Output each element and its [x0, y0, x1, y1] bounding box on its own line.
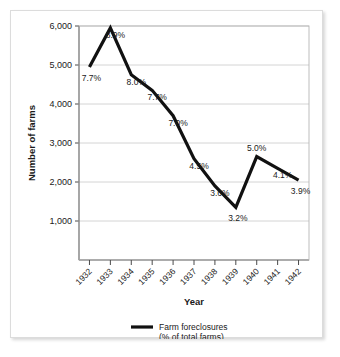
figure-card: 1,0002,0003,0004,0005,0006,000 193219331… [10, 10, 323, 338]
y-axis-tick-label: 4,000 [49, 99, 72, 109]
data-point-label: 8.9% [106, 30, 126, 40]
x-axis-tick-label: 1941 [262, 266, 283, 287]
x-axis-tick-label: 1942 [283, 266, 304, 287]
data-point-label: 7.0% [168, 118, 188, 128]
data-point-label: 4.5% [189, 161, 209, 171]
legend-label-line1: Farm foreclosures [159, 322, 228, 332]
y-axis-title: Number of farms [26, 105, 37, 181]
data-point-label: 5.0% [247, 143, 267, 153]
data-point-labels: 7.7%8.9%8.0%7.7%7.0%4.5%3.6%3.2%5.0%4.1%… [82, 30, 311, 223]
x-axis-tick-marks [89, 260, 298, 265]
x-axis-tick-label: 1934 [115, 266, 136, 287]
x-axis-tick-label: 1937 [178, 266, 199, 287]
data-point-label: 3.6% [210, 188, 230, 198]
x-axis-tick-label: 1932 [73, 266, 94, 287]
legend-label-line2: (% of total farms) [159, 332, 224, 339]
chart-svg: 1,0002,0003,0004,0005,0006,000 193219331… [11, 11, 324, 339]
data-point-label: 7.7% [82, 73, 102, 83]
series-line-farm-foreclosures [89, 28, 298, 207]
x-axis-tick-label: 1940 [241, 266, 262, 287]
data-point-label: 3.9% [291, 186, 311, 196]
line-chart: 1,0002,0003,0004,0005,0006,000 193219331… [11, 11, 324, 339]
y-axis-tick-label: 5,000 [49, 60, 72, 70]
gridlines [79, 26, 309, 260]
data-point-label: 7.7% [147, 92, 167, 102]
x-axis-tick-label: 1938 [199, 266, 220, 287]
x-axis-title: Year [184, 296, 204, 307]
x-axis-tick-label: 1939 [220, 266, 241, 287]
y-axis-tick-label: 1,000 [49, 216, 72, 226]
data-point-label: 3.2% [228, 213, 248, 223]
y-axis-tick-label: 2,000 [49, 177, 72, 187]
x-axis-tick-label: 1933 [94, 266, 115, 287]
legend: Farm foreclosures (% of total farms) [131, 322, 228, 339]
data-point-label: 4.1% [273, 170, 293, 180]
y-axis-tick-label: 3,000 [49, 138, 72, 148]
x-axis-tick-label: 1936 [157, 266, 178, 287]
y-axis-tick-labels: 1,0002,0003,0004,0005,0006,000 [49, 21, 72, 226]
x-axis-tick-label: 1935 [136, 266, 157, 287]
x-axis-tick-labels: 1932193319341935193619371938193919401941… [73, 266, 303, 287]
y-axis-tick-marks [75, 26, 79, 221]
data-point-label: 8.0% [127, 77, 147, 87]
y-axis-tick-label: 6,000 [49, 21, 72, 31]
